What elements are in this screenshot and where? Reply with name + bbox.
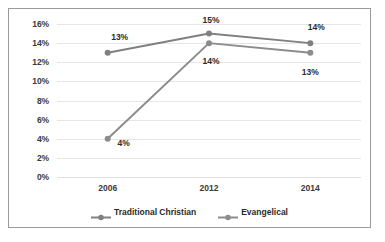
data-point-marker (307, 40, 313, 46)
y-axis-tick-label: 12% (32, 57, 49, 67)
gridline (57, 177, 361, 178)
plot-area (57, 24, 361, 177)
x-axis-tick-label: 2006 (98, 183, 117, 193)
data-point-label: 13% (111, 32, 128, 42)
legend-label: Traditional Christian (114, 207, 196, 217)
y-axis-tick-label: 16% (32, 19, 49, 29)
data-point-label: 14% (202, 56, 219, 66)
chart-legend: Traditional ChristianEvangelical (9, 207, 370, 217)
x-axis: 200620122014 (57, 183, 361, 199)
data-point-label: 15% (202, 15, 219, 25)
y-axis-tick-label: 6% (37, 115, 49, 125)
series-lines (57, 24, 361, 177)
data-point-label: 14% (308, 22, 325, 32)
legend-marker-icon (218, 208, 238, 217)
data-point-label: 13% (302, 67, 319, 77)
y-axis: 0%2%4%6%8%10%12%14%16% (9, 24, 53, 177)
y-axis-tick-label: 0% (37, 172, 49, 182)
y-axis-tick-label: 4% (37, 134, 49, 144)
y-axis-tick-label: 10% (32, 76, 49, 86)
x-axis-tick-label: 2014 (301, 183, 320, 193)
data-point-marker (105, 50, 111, 56)
data-point-marker (307, 50, 313, 56)
x-axis-tick-label: 2012 (200, 183, 219, 193)
chart-frame: 0%2%4%6%8%10%12%14%16% 13%15%14%4%14%13%… (8, 8, 371, 228)
legend-marker-icon (91, 208, 111, 217)
data-point-marker (206, 40, 212, 46)
data-point-marker (105, 136, 111, 142)
legend-label: Evangelical (241, 207, 288, 217)
data-point-marker (206, 31, 212, 37)
legend-item-traditional-christian[interactable]: Traditional Christian (91, 207, 196, 217)
y-axis-tick-label: 14% (32, 38, 49, 48)
data-point-label: 4% (118, 138, 130, 148)
legend-item-evangelical[interactable]: Evangelical (218, 207, 288, 217)
y-axis-tick-label: 2% (37, 153, 49, 163)
y-axis-tick-label: 8% (37, 96, 49, 106)
